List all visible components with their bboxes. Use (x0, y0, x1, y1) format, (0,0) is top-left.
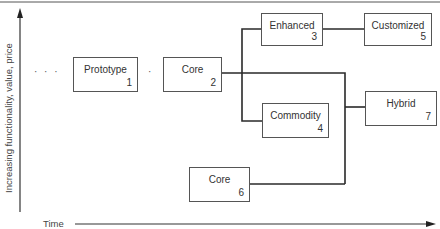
node-number: 3 (311, 31, 317, 42)
node-label: Prototype (74, 64, 137, 75)
ellipsis-between: · (148, 66, 153, 77)
node-enhanced: Enhanced 3 (261, 13, 323, 46)
x-axis-arrow-icon (426, 221, 436, 227)
node-label: Core (164, 64, 221, 75)
node-label: Commodity (263, 110, 328, 121)
node-customized: Customized 5 (364, 13, 432, 46)
node-number: 2 (210, 77, 216, 88)
y-axis-label: Increasing functionality, value, price (3, 43, 14, 193)
node-hybrid: Hybrid 7 (365, 91, 437, 126)
node-label: Hybrid (366, 98, 436, 109)
x-axis-label: Time (43, 218, 64, 229)
ellipsis-left: · · · (34, 66, 60, 77)
node-core-2: Core 2 (163, 57, 222, 92)
edge-core2-enhanced-commodity (242, 29, 262, 121)
node-number: 5 (420, 31, 426, 42)
node-number: 1 (126, 77, 132, 88)
node-number: 6 (238, 187, 244, 198)
node-number: 4 (317, 123, 323, 134)
y-axis-arrow-icon (17, 8, 23, 18)
node-number: 7 (425, 111, 431, 122)
node-label: Customized (365, 20, 431, 31)
node-commodity: Commodity 4 (262, 103, 329, 138)
node-core-6: Core 6 (189, 167, 250, 202)
node-label: Enhanced (262, 20, 322, 31)
node-label: Core (190, 174, 249, 185)
node-prototype: Prototype 1 (73, 57, 138, 92)
